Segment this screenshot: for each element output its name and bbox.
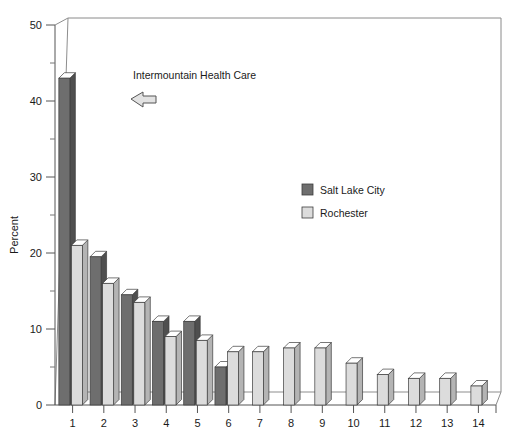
y-axis-title: Percent bbox=[8, 216, 20, 254]
bar-rochester-11-side bbox=[388, 369, 394, 405]
annotation-text: Intermountain Health Care bbox=[133, 69, 256, 81]
legend-label-rochester: Rochester bbox=[320, 207, 368, 219]
bar-rochester-3-side bbox=[145, 297, 151, 405]
x-tick-label-4: 4 bbox=[163, 417, 169, 429]
bar-salt-lake-city-6-face bbox=[215, 367, 226, 405]
chart-canvas: 50 40 30 20 10 0 Percent 123456789101112… bbox=[0, 0, 524, 448]
bar-rochester-4-face bbox=[165, 337, 176, 405]
x-tick-label-13: 13 bbox=[441, 417, 453, 429]
legend-label-salt-lake-city: Salt Lake City bbox=[320, 184, 386, 196]
bar-rochester-12 bbox=[408, 373, 425, 405]
bar-rochester-6-side bbox=[238, 346, 244, 405]
x-tick-label-6: 6 bbox=[226, 417, 232, 429]
bar-rochester-2-face bbox=[103, 283, 114, 405]
bar-rochester-7 bbox=[252, 346, 269, 405]
bar-rochester-2 bbox=[103, 278, 120, 405]
bar-rochester-2-side bbox=[114, 278, 120, 405]
y-axis-ticks bbox=[46, 25, 55, 405]
bar-chart-figure: 50 40 30 20 10 0 Percent 123456789101112… bbox=[0, 0, 524, 448]
bar-rochester-5 bbox=[196, 335, 213, 405]
bars-layer bbox=[59, 73, 488, 405]
y-tick-label-0: 0 bbox=[36, 399, 42, 411]
bar-rochester-10-side bbox=[357, 358, 363, 405]
bar-rochester-3-face bbox=[134, 302, 145, 405]
bar-rochester-13 bbox=[440, 373, 457, 405]
y-tick-label-50: 50 bbox=[30, 19, 42, 31]
y-tick-label-30: 30 bbox=[30, 171, 42, 183]
bar-rochester-7-face bbox=[252, 352, 263, 405]
bar-salt-lake-city-2-face bbox=[90, 257, 101, 405]
bar-rochester-9-side bbox=[326, 343, 332, 406]
bar-rochester-6-face bbox=[227, 352, 238, 405]
x-tick-label-10: 10 bbox=[347, 417, 359, 429]
y-tick-label-40: 40 bbox=[30, 95, 42, 107]
bar-rochester-11-face bbox=[377, 375, 388, 405]
bar-salt-lake-city-4-face bbox=[153, 321, 164, 405]
legend: Salt Lake City Rochester bbox=[302, 184, 386, 219]
bar-rochester-8-face bbox=[284, 348, 295, 405]
bar-rochester-13-face bbox=[440, 378, 451, 405]
bar-rochester-6 bbox=[227, 346, 244, 405]
bar-rochester-1 bbox=[71, 240, 88, 405]
legend-swatch-salt-lake-city bbox=[302, 184, 313, 195]
bar-salt-lake-city-3-face bbox=[121, 295, 132, 405]
x-tick-label-5: 5 bbox=[194, 417, 200, 429]
bar-rochester-12-face bbox=[408, 378, 419, 405]
x-tick-label-8: 8 bbox=[288, 417, 294, 429]
left-arrow-icon bbox=[131, 92, 156, 107]
bar-salt-lake-city-5-face bbox=[184, 321, 195, 405]
bar-rochester-7-side bbox=[263, 346, 269, 405]
bar-rochester-4-side bbox=[176, 331, 182, 405]
bar-rochester-8-side bbox=[295, 343, 301, 406]
bar-rochester-10 bbox=[346, 358, 363, 405]
x-tick-label-11: 11 bbox=[379, 417, 390, 429]
x-tick-label-9: 9 bbox=[319, 417, 325, 429]
bar-rochester-9 bbox=[315, 343, 332, 406]
bar-rochester-1-side bbox=[82, 240, 88, 405]
bar-rochester-9-face bbox=[315, 348, 326, 405]
bar-rochester-14-face bbox=[471, 386, 482, 405]
y-tick-label-20: 20 bbox=[30, 247, 42, 259]
bar-rochester-10-face bbox=[346, 363, 357, 405]
annotation-group: Intermountain Health Care bbox=[131, 69, 256, 107]
bar-salt-lake-city-1-face bbox=[59, 78, 70, 405]
bar-rochester-11 bbox=[377, 369, 394, 405]
bar-rochester-4 bbox=[165, 331, 182, 405]
legend-swatch-rochester bbox=[302, 207, 313, 218]
x-tick-label-1: 1 bbox=[70, 417, 76, 429]
bar-rochester-8 bbox=[284, 343, 301, 406]
x-tick-label-2: 2 bbox=[101, 417, 107, 429]
bar-rochester-5-face bbox=[196, 340, 207, 405]
x-axis-layer: 1234567891011121314 bbox=[70, 405, 496, 429]
y-tick-label-10: 10 bbox=[30, 323, 42, 335]
x-tick-label-3: 3 bbox=[132, 417, 138, 429]
bar-rochester-14 bbox=[471, 381, 488, 406]
x-tick-label-7: 7 bbox=[257, 417, 263, 429]
bar-rochester-5-side bbox=[207, 335, 213, 405]
x-tick-label-14: 14 bbox=[472, 417, 484, 429]
y-axis-labels: 50 40 30 20 10 0 bbox=[30, 19, 42, 411]
bar-rochester-3 bbox=[134, 297, 151, 405]
x-tick-label-12: 12 bbox=[410, 417, 422, 429]
bar-rochester-1-face bbox=[71, 245, 82, 405]
